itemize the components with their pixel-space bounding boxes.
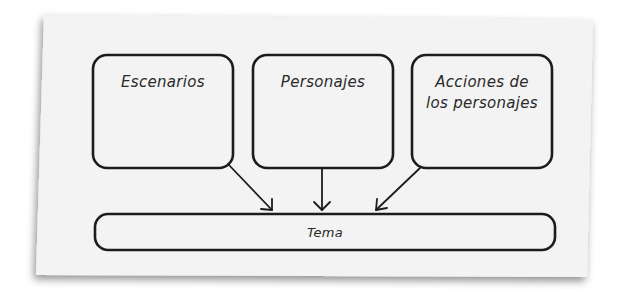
label-acciones-line1: Acciones de (412, 72, 552, 93)
label-escenarios: Escenarios (93, 72, 233, 93)
label-tema: Tema (95, 222, 555, 243)
label-acciones-line2: los personajes (412, 93, 552, 114)
label-personajes: Personajes (253, 72, 393, 93)
diagram-canvas (0, 0, 627, 293)
